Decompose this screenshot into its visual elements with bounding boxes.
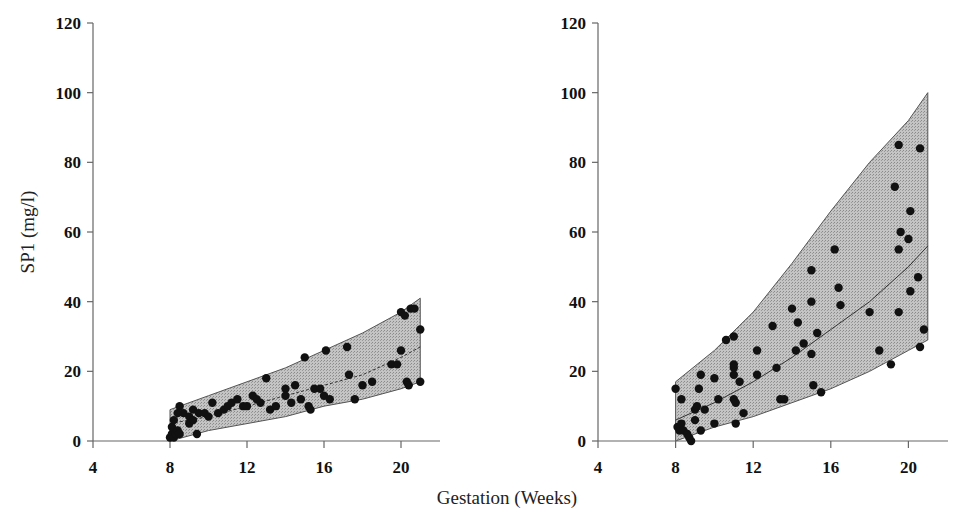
- data-point: [351, 395, 359, 403]
- data-point: [691, 416, 699, 424]
- data-point: [799, 339, 807, 347]
- data-point: [735, 378, 743, 386]
- y-tick-label: 40: [64, 293, 81, 312]
- y-tick-label: 80: [569, 153, 586, 172]
- data-point: [906, 287, 914, 295]
- data-point: [208, 398, 216, 406]
- x-tick-label: 20: [900, 458, 917, 477]
- data-point: [710, 374, 718, 382]
- data-point: [175, 430, 183, 438]
- data-point: [397, 346, 405, 354]
- data-point: [920, 325, 928, 333]
- right-panel: 02040608010012048121620: [561, 14, 949, 477]
- y-tick-label: 20: [64, 362, 81, 381]
- y-tick-label: 40: [569, 293, 586, 312]
- x-tick-label: 12: [239, 458, 256, 477]
- x-tick-label: 8: [671, 458, 680, 477]
- data-point: [343, 343, 351, 351]
- data-point: [753, 371, 761, 379]
- data-point: [243, 402, 251, 410]
- data-point: [714, 395, 722, 403]
- data-point: [701, 405, 709, 413]
- x-tick-label: 16: [316, 458, 333, 477]
- data-point: [695, 385, 703, 393]
- y-tick-label: 100: [56, 84, 82, 103]
- data-point: [788, 304, 796, 312]
- data-point: [780, 395, 788, 403]
- data-point: [895, 245, 903, 253]
- data-point: [272, 402, 280, 410]
- data-point: [345, 371, 353, 379]
- data-point: [368, 378, 376, 386]
- data-point: [813, 329, 821, 337]
- data-point: [256, 398, 264, 406]
- data-point: [204, 412, 212, 420]
- data-point: [193, 430, 201, 438]
- data-point: [834, 284, 842, 292]
- data-point: [297, 395, 305, 403]
- data-point: [768, 322, 776, 330]
- data-point: [687, 437, 695, 445]
- data-point: [794, 318, 802, 326]
- y-tick-label: 80: [64, 153, 81, 172]
- x-tick-label: 4: [89, 458, 98, 477]
- data-point: [710, 419, 718, 427]
- data-point: [287, 398, 295, 406]
- y-axis-label: SP1 (mg/l): [17, 191, 39, 274]
- data-point: [865, 308, 873, 316]
- data-point: [914, 273, 922, 281]
- data-point: [891, 183, 899, 191]
- data-point: [306, 405, 314, 413]
- x-tick-label: 12: [745, 458, 762, 477]
- data-point: [322, 346, 330, 354]
- data-point: [906, 207, 914, 215]
- y-tick-label: 120: [56, 14, 82, 33]
- data-point: [405, 381, 413, 389]
- data-point: [739, 409, 747, 417]
- data-point: [677, 395, 685, 403]
- data-point: [326, 395, 334, 403]
- data-point: [697, 371, 705, 379]
- data-point: [730, 371, 738, 379]
- data-point: [836, 301, 844, 309]
- data-point: [393, 360, 401, 368]
- chart-figure: 02040608010012048121620 0204060801001204…: [0, 0, 966, 527]
- data-point: [722, 336, 730, 344]
- data-point: [896, 228, 904, 236]
- data-point: [830, 245, 838, 253]
- data-point: [730, 332, 738, 340]
- data-point: [753, 346, 761, 354]
- y-tick-label: 60: [569, 223, 586, 242]
- data-point: [301, 353, 309, 361]
- data-point: [916, 144, 924, 152]
- data-point: [291, 381, 299, 389]
- left-panel: 02040608010012048121620: [56, 14, 441, 477]
- x-tick-label: 20: [393, 458, 410, 477]
- data-point: [916, 343, 924, 351]
- x-tick-label: 4: [594, 458, 603, 477]
- reference-band: [676, 93, 928, 441]
- x-axis-label: Gestation (Weeks): [437, 487, 577, 509]
- data-point: [189, 416, 197, 424]
- data-point: [809, 381, 817, 389]
- data-point: [807, 297, 815, 305]
- y-tick-label: 0: [73, 432, 82, 451]
- data-point: [233, 395, 241, 403]
- data-point: [281, 392, 289, 400]
- data-point: [262, 374, 270, 382]
- y-tick-label: 100: [561, 84, 587, 103]
- data-point: [895, 141, 903, 149]
- y-tick-label: 120: [561, 14, 587, 33]
- data-point: [358, 381, 366, 389]
- data-point: [772, 364, 780, 372]
- data-point: [904, 235, 912, 243]
- data-point: [887, 360, 895, 368]
- data-point: [732, 419, 740, 427]
- data-point: [732, 398, 740, 406]
- data-point: [875, 346, 883, 354]
- data-point: [792, 346, 800, 354]
- x-tick-label: 16: [822, 458, 839, 477]
- y-tick-label: 20: [569, 362, 586, 381]
- data-point: [693, 402, 701, 410]
- data-point: [817, 388, 825, 396]
